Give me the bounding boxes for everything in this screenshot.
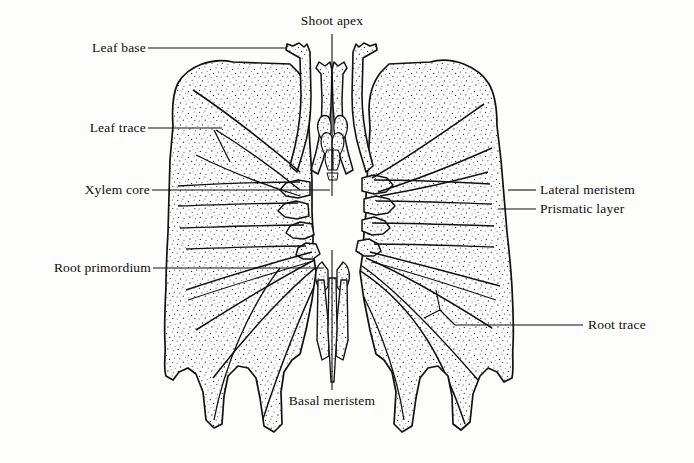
figure-canvas: Leaf base Leaf trace Xylem core Root pri… [0, 0, 694, 463]
label-lateral-meristem: Lateral meristem [540, 182, 635, 198]
label-xylem-core: Xylem core [0, 182, 150, 198]
label-prismatic-layer: Prismatic layer [540, 201, 624, 217]
label-leaf-base: Leaf base [0, 40, 146, 56]
label-root-trace: Root trace [588, 317, 646, 333]
label-root-primordium: Root primordium [0, 260, 151, 276]
label-basal-meristem: Basal meristem [272, 393, 392, 409]
label-shoot-apex: Shoot apex [272, 13, 392, 29]
corm-right-half [360, 60, 513, 432]
label-leaf-trace: Leaf trace [0, 120, 146, 136]
